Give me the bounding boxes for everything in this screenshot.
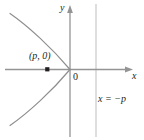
x-axis-label: x [132, 71, 136, 81]
origin-label: 0 [73, 72, 78, 82]
figure-canvas [0, 0, 144, 140]
focus-point-label: (p, 0) [29, 51, 51, 61]
y-axis-label: y [60, 3, 64, 13]
focus-point-marker [45, 67, 49, 71]
directrix-label: x = −p [98, 94, 126, 104]
parabola-figure: y x 0 (p, 0) x = −p [0, 0, 144, 140]
y-axis-arrowhead-icon [67, 5, 73, 13]
